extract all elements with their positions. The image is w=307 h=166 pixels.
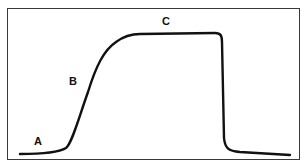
label-c: C — [162, 15, 170, 27]
label-a: A — [34, 135, 42, 147]
curve-plot — [0, 0, 307, 166]
response-curve — [20, 33, 290, 155]
label-b: B — [69, 75, 77, 87]
